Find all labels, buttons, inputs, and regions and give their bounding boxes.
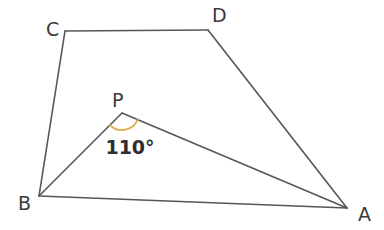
angle-value-group: 110° bbox=[105, 136, 154, 158]
vertex-label-B: B bbox=[18, 192, 31, 214]
vertex-label-P: P bbox=[112, 89, 123, 111]
vertex-label-C: C bbox=[46, 18, 59, 40]
diagram-canvas: C D P B A 110° bbox=[0, 0, 384, 230]
angle-value-BPA: 110° bbox=[105, 136, 154, 158]
vertex-label-A: A bbox=[358, 203, 371, 225]
segment-CD bbox=[65, 30, 208, 31]
vertex-label-D: D bbox=[212, 4, 227, 26]
geometry-figure: C D P B A 110° bbox=[0, 0, 384, 230]
